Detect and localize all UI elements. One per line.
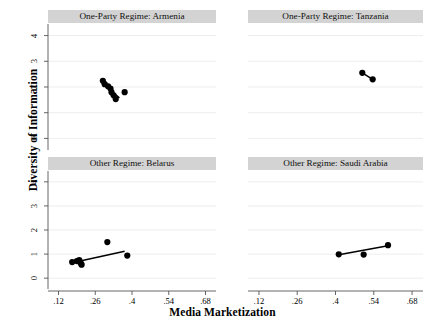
x-tick-label: .4 (120, 296, 144, 306)
panel-belarus (44, 171, 216, 295)
data-point (361, 251, 367, 257)
panel-title-tanzania: One-Party Regime: Tanzania (248, 10, 423, 23)
x-tick-label: .4 (324, 296, 348, 306)
data-point (122, 89, 128, 95)
panel-saudi-arabia (248, 182, 423, 295)
x-tick-label: .26 (285, 296, 309, 306)
y-tick-label: 1 (29, 107, 39, 119)
y-tick-label: 4 (29, 30, 39, 42)
x-tick-label: .26 (83, 296, 107, 306)
y-tick-label: 0 (29, 272, 39, 284)
panel-title-belarus: Other Regime: Belarus (48, 157, 216, 170)
data-point (79, 262, 85, 268)
y-tick-label: 0 (29, 132, 39, 144)
panel-title-armenia: One-Party Regime: Armenia (48, 10, 216, 23)
y-tick-label: 3 (29, 55, 39, 67)
panel-armenia (44, 24, 216, 150)
y-tick-label: 1 (29, 248, 39, 260)
data-point (370, 76, 376, 82)
y-tick-label: 3 (29, 200, 39, 212)
data-point (336, 251, 342, 257)
scatter-matrix-figure: Diversity of Information Media Marketiza… (0, 0, 445, 326)
y-tick-label: 2 (29, 224, 39, 236)
data-point (124, 252, 130, 258)
x-tick-label: .12 (47, 296, 71, 306)
y-tick-label: 2 (29, 81, 39, 93)
data-point (385, 242, 391, 248)
x-tick-label: .54 (157, 296, 181, 306)
fit-line-belarus (79, 251, 125, 261)
x-tick-label: .68 (400, 296, 424, 306)
data-point (104, 239, 110, 245)
panel-tanzania (248, 36, 423, 139)
x-tick-label: .68 (194, 296, 218, 306)
y-tick-label: 4 (29, 176, 39, 188)
x-tick-label: .54 (362, 296, 386, 306)
x-tick-label: .12 (247, 296, 271, 306)
data-point (113, 96, 119, 102)
x-axis-title: Media Marketization (0, 306, 445, 318)
panel-title-saudi-arabia: Other Regime: Saudi Arabia (248, 157, 423, 170)
data-point (359, 70, 365, 76)
